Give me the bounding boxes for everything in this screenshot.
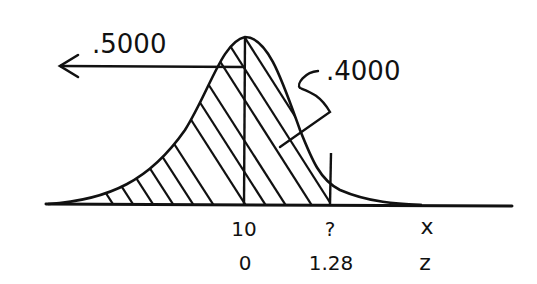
tick-z-cutoff: 1.28 — [309, 251, 354, 275]
left-area-arrow — [60, 66, 245, 67]
x-axis-line — [46, 204, 512, 206]
tick-z-mean: 0 — [239, 251, 252, 275]
z-axis-label: z — [419, 250, 431, 275]
tick-x-mean: 10 — [231, 217, 256, 241]
cutoff-line — [330, 153, 331, 205]
left-area-label: .5000 — [92, 29, 166, 59]
normal-curve-diagram: .5000 .4000 10 ? x 0 1.28 z — [0, 0, 537, 284]
tick-x-unknown: ? — [325, 217, 336, 241]
right-area-label: .4000 — [326, 56, 400, 86]
mean-line — [244, 37, 245, 205]
x-axis-label: x — [420, 214, 433, 239]
